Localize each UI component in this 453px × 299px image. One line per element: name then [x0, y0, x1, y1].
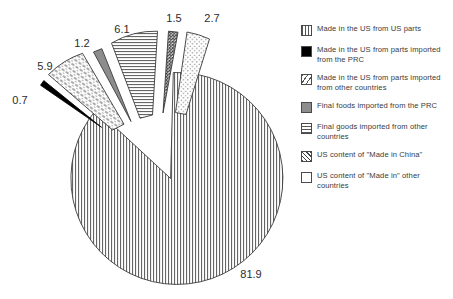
- slice-value-label-0-7: 0.7: [12, 94, 27, 106]
- slice-value-label-2-7: 2.7: [204, 12, 219, 24]
- slice-value-label-6-1: 6.1: [114, 23, 129, 35]
- slice-value-label-81-9: 81.9: [240, 268, 261, 280]
- legend-item-final-goods-other[interactable]: Final goods imported from other countrie…: [301, 122, 453, 141]
- legend-item-parts-imported-prc[interactable]: Made in the US from parts imported from …: [301, 45, 453, 64]
- slice-value-label-1-5: 1.5: [166, 12, 181, 24]
- legend-label: Final foods imported from the PRC: [317, 101, 437, 111]
- legend-label: Made in the US from parts imported from …: [317, 45, 453, 64]
- legend-item-parts-imported-other[interactable]: Made in the US from parts imported from …: [301, 73, 453, 92]
- legend-label: Made in the US from parts imported from …: [317, 73, 453, 92]
- legend-swatch-solid-gray-icon: [301, 102, 312, 113]
- legend-label: US content of "Made in" other countries: [317, 171, 453, 190]
- slice-value-label-1-2: 1.2: [74, 37, 89, 49]
- legend-item-made-in-us-from-us-parts[interactable]: Made in the US from US parts: [301, 24, 453, 36]
- legend-item-us-content-made-in-other[interactable]: US content of "Made in" other countries: [301, 171, 453, 190]
- legend-label: Made in the US from US parts: [317, 24, 421, 34]
- legend-swatch-sparse-dots-icon: [301, 172, 312, 183]
- legend-swatch-cross-hatch-icon: [301, 151, 312, 162]
- legend-swatch-horizontal-lines-icon: [301, 123, 312, 134]
- pie-slice-parts-imported-other: [49, 53, 125, 130]
- legend-item-final-foods-prc[interactable]: Final foods imported from the PRC: [301, 101, 453, 113]
- legend-label: Final goods imported from other countrie…: [317, 122, 453, 141]
- legend-item-us-content-made-in-china[interactable]: US content of "Made in China": [301, 150, 453, 162]
- legend-swatch-vertical-lines-icon: [301, 25, 312, 36]
- legend-label: US content of "Made in China": [317, 150, 422, 160]
- legend-swatch-diagonal-dash-dots-icon: [301, 74, 312, 85]
- pie-chart-figure: 81.9 0.7 5.9 1.2 6.1 1.5 2.7 Made in the…: [0, 0, 453, 299]
- chart-legend: Made in the US from US parts Made in the…: [301, 24, 453, 199]
- legend-swatch-solid-black-icon: [301, 46, 312, 57]
- slice-value-label-5-9: 5.9: [37, 60, 52, 72]
- pie-slice-final-goods-other: [112, 31, 158, 118]
